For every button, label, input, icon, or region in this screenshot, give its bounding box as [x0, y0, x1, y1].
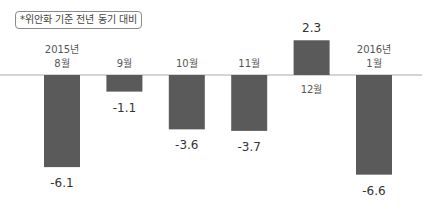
value-label-3: -3.7 — [237, 140, 260, 154]
category-label-0: 8월 — [54, 58, 69, 69]
category-label-3: 11월 — [238, 58, 260, 69]
category-label-1: 9월 — [117, 58, 132, 69]
category-label-4: 12월 — [301, 84, 323, 95]
value-label-1: -1.1 — [113, 101, 136, 115]
value-label-2: -3.6 — [175, 138, 198, 152]
bar-4 — [294, 40, 330, 75]
value-label-5: -6.6 — [362, 184, 385, 198]
category-label-2: 10월 — [176, 58, 198, 69]
category-label-5: 1월 — [366, 58, 381, 69]
bar-2 — [169, 75, 205, 129]
category-label-0: 2015년 — [45, 44, 79, 55]
bar-1 — [106, 75, 142, 92]
bar-5 — [356, 75, 392, 175]
bar-3 — [231, 75, 267, 131]
category-label-5: 2016년 — [357, 44, 391, 55]
bar-chart: -6.12015년8월-1.19월-3.610월-3.711월2.312월-6.… — [0, 0, 433, 209]
value-label-0: -6.1 — [50, 176, 73, 190]
bar-0 — [44, 75, 80, 167]
value-label-4: 2.3 — [302, 21, 321, 35]
